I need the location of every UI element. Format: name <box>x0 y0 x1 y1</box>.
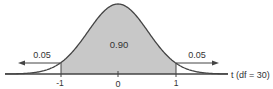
x-axis-label: t (df = 30) <box>231 70 270 80</box>
left-tail-label: 0.05 <box>33 50 51 60</box>
right-tail-label: 0.05 <box>188 50 206 60</box>
left-arrow-icon <box>18 61 60 66</box>
tick-label-pos1: 1 <box>174 78 179 88</box>
tick-label-neg1: -1 <box>56 78 64 88</box>
center-area-label: 0.90 <box>110 39 129 50</box>
right-arrow-icon <box>176 61 219 66</box>
tick-label-0: 0 <box>115 79 120 89</box>
t-distribution-chart: 0.05 0.90 0.05 t (df = 30) -1 0 1 <box>0 0 273 89</box>
